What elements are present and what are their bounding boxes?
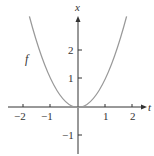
t-axis-arrow-icon	[141, 105, 147, 110]
tick-label-t-1: 1	[103, 110, 109, 122]
curve-label-f: f	[25, 52, 30, 66]
tick-label-t-neg1: −1	[41, 110, 53, 122]
tick-label-x-2: 2	[68, 44, 74, 56]
tick-label-x-neg1: −1	[62, 129, 74, 141]
parabola-chart: t x −2 −1 1 2 2 1 −1 f	[0, 0, 154, 156]
t-axis-label: t	[148, 101, 152, 113]
x-axis-ticks	[78, 50, 82, 135]
tick-label-t-neg2: −2	[14, 110, 26, 122]
x-axis-label: x	[74, 1, 80, 13]
x-axis-arrow-icon	[76, 16, 81, 22]
tick-label-t-2: 2	[130, 110, 136, 122]
tick-label-x-1: 1	[68, 72, 74, 84]
